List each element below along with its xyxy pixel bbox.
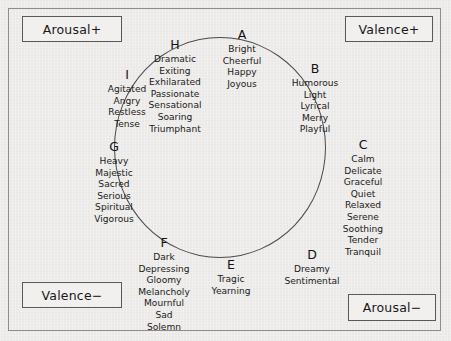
mood-cluster-d: D DreamySentimental xyxy=(268,248,356,287)
mood-cluster-g: G HeavyMajesticSacredSeriousSpiritualVig… xyxy=(72,140,156,226)
mood-term: Serious xyxy=(72,191,156,203)
mood-term: Tense xyxy=(86,119,168,131)
mood-cluster-c: C CalmDelicateGracefulQuietRelaxedSerene… xyxy=(322,138,404,258)
mood-term: Dark xyxy=(118,252,210,264)
cluster-letter: F xyxy=(118,236,210,250)
mood-term: Sentimental xyxy=(268,276,356,288)
mood-term: Quiet xyxy=(322,189,404,201)
mood-term: Calm xyxy=(322,154,404,166)
cluster-terms: HumorousLightLyricalMerryPlayful xyxy=(272,78,358,136)
cluster-terms: CalmDelicateGracefulQuietRelaxedSereneSo… xyxy=(322,154,404,258)
cluster-letter: D xyxy=(268,248,356,262)
mood-term: Relaxed xyxy=(322,200,404,212)
cluster-letter: I xyxy=(86,68,168,82)
mood-term: Sad xyxy=(118,310,210,322)
mood-term: Delicate xyxy=(322,166,404,178)
mood-term: Soothing xyxy=(322,224,404,236)
mood-term: Graceful xyxy=(322,177,404,189)
axis-label-valence-negative: Valence− xyxy=(22,282,122,308)
cluster-letter: H xyxy=(132,38,218,52)
mood-term: Dramatic xyxy=(132,54,218,66)
mood-circumplex-figure: Arousal+ Valence+ Valence− Arousal− A Br… xyxy=(0,0,451,341)
cluster-terms: DreamySentimental xyxy=(268,264,356,287)
mood-cluster-b: B HumorousLightLyricalMerryPlayful xyxy=(272,62,358,136)
cluster-terms: HeavyMajesticSacredSeriousSpiritualVigor… xyxy=(72,156,156,226)
cluster-terms: AgitatedAngryRestlessTense xyxy=(86,84,168,130)
cluster-letter: G xyxy=(72,140,156,154)
mood-term: Agitated xyxy=(86,84,168,96)
axis-label-arousal-positive: Arousal+ xyxy=(22,16,122,42)
mood-term: Lyrical xyxy=(272,101,358,113)
mood-term: Solemn xyxy=(118,322,210,334)
mood-term: Restless xyxy=(86,107,168,119)
mood-term: Vigorous xyxy=(72,214,156,226)
mood-term: Dreamy xyxy=(268,264,356,276)
mood-term: Merry xyxy=(272,113,358,125)
mood-term: Mournful xyxy=(118,298,210,310)
mood-term: Heavy xyxy=(72,156,156,168)
mood-term: Majestic xyxy=(72,168,156,180)
cluster-letter: C xyxy=(322,138,404,152)
axis-label-arousal-negative: Arousal− xyxy=(348,294,436,321)
mood-cluster-i: I AgitatedAngryRestlessTense xyxy=(86,68,168,130)
mood-term: Humorous xyxy=(272,78,358,90)
mood-term: Gloomy xyxy=(118,275,210,287)
mood-term: Angry xyxy=(86,96,168,108)
mood-term: Serene xyxy=(322,212,404,224)
mood-cluster-f: F DarkDepressingGloomyMelancholyMournful… xyxy=(118,236,210,333)
mood-term: Playful xyxy=(272,124,358,136)
mood-term: Spiritual xyxy=(72,202,156,214)
cluster-letter: B xyxy=(272,62,358,76)
mood-term: Depressing xyxy=(118,264,210,276)
mood-term: Melancholy xyxy=(118,287,210,299)
mood-term: Tender xyxy=(322,235,404,247)
axis-label-valence-positive: Valence+ xyxy=(345,16,433,42)
mood-term: Sacred xyxy=(72,179,156,191)
mood-term: Light xyxy=(272,90,358,102)
cluster-terms: DarkDepressingGloomyMelancholyMournfulSa… xyxy=(118,252,210,333)
